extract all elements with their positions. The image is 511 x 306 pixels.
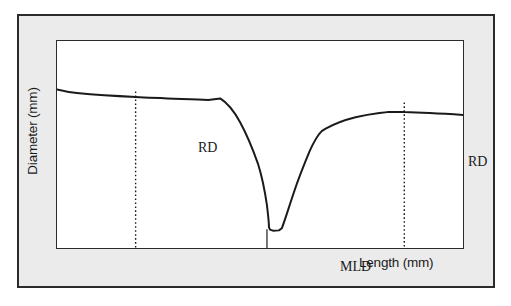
- mld-label: MLD: [340, 259, 371, 275]
- y-axis-title: Diameter (mm): [17, 0, 32, 56]
- y-axis-title-label: Diameter (mm): [25, 56, 40, 206]
- diameter-profile-plot: [57, 41, 463, 248]
- figure-panel: Diameter (mm) Length (mm) RD RD MLD: [17, 14, 495, 288]
- rd-right-label: RD: [468, 154, 487, 170]
- plot-frame: RD RD MLD: [56, 40, 464, 249]
- vessel-diameter-curve: [57, 90, 463, 231]
- rd-left-label: RD: [198, 140, 217, 156]
